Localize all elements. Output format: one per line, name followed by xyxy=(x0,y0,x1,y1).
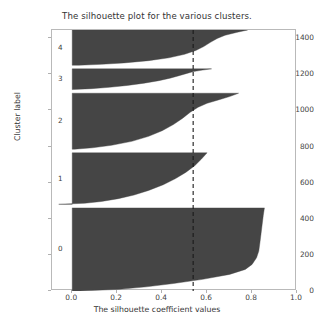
cluster-silhouette-band-3 xyxy=(72,69,211,90)
cluster-label-3: 3 xyxy=(58,74,63,83)
x-axis-tick-label: 0.4 xyxy=(141,293,181,302)
silhouette-plot-figure: The silhouette plot for the various clus… xyxy=(0,0,314,327)
cluster-silhouette-band-4 xyxy=(72,30,247,65)
chart-title: The silhouette plot for the various clus… xyxy=(0,11,314,21)
cluster-label-1: 1 xyxy=(58,173,63,182)
y-axis-label: Cluster label xyxy=(13,62,22,172)
x-axis-tick-label: 0.2 xyxy=(96,293,136,302)
silhouette-bands-svg xyxy=(52,30,297,291)
cluster-silhouette-band-1 xyxy=(59,153,207,204)
plot-area xyxy=(51,29,296,290)
x-axis-label: The silhouette coefficient values xyxy=(0,305,314,314)
x-axis-tick-label: 0.0 xyxy=(51,293,91,302)
cluster-label-2: 2 xyxy=(58,116,63,125)
x-axis-tick-label: 1.0 xyxy=(276,293,314,302)
cluster-label-0: 0 xyxy=(58,244,63,253)
y-axis-tick-mark xyxy=(48,290,51,291)
cluster-silhouette-band-2 xyxy=(72,93,238,149)
cluster-label-4: 4 xyxy=(58,42,63,51)
x-axis-tick-label: 0.6 xyxy=(186,293,226,302)
cluster-silhouette-band-0 xyxy=(72,208,264,291)
x-axis-tick-label: 0.8 xyxy=(231,293,271,302)
